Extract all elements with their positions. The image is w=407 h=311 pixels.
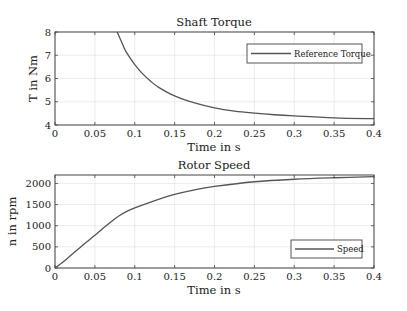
- y-axis-label: n in rpm: [5, 197, 19, 247]
- y-tick-label: 500: [32, 241, 51, 252]
- x-tick-label: 0.2: [207, 128, 223, 139]
- legend: Speed: [291, 240, 364, 258]
- x-axis-label: Time in s: [187, 283, 240, 297]
- y-axis-label: T in Nm: [26, 55, 40, 102]
- x-tick-label: 0.4: [366, 271, 382, 282]
- y-tick-label: 0: [45, 263, 51, 274]
- x-tick-label: 0.25: [243, 128, 265, 139]
- y-tick-label: 8: [45, 27, 51, 38]
- legend: Reference Torque: [247, 44, 371, 63]
- x-axis-label: Time in s: [187, 140, 240, 154]
- y-tick-label: 5: [45, 96, 51, 107]
- x-tick-label: 0.2: [207, 271, 223, 282]
- x-tick-label: 0.1: [127, 128, 143, 139]
- figure: Shaft Torque 00.050.10.150.20.250.30.350…: [0, 0, 407, 311]
- y-tick-label: 2000: [26, 178, 51, 189]
- y-tick-label: 6: [45, 73, 51, 84]
- x-tick-label: 0.15: [163, 128, 185, 139]
- legend-label-speed: Speed: [337, 244, 364, 254]
- x-tick-label: 0.4: [366, 128, 382, 139]
- x-tick-label: 0.25: [243, 271, 265, 282]
- x-tick-label: 0.35: [323, 271, 345, 282]
- y-tick-label: 1000: [26, 220, 51, 231]
- x-tick-label: 0.15: [163, 271, 185, 282]
- x-tick-label: 0.05: [84, 271, 106, 282]
- y-tick-label: 7: [45, 50, 51, 61]
- chart-title: Shaft Torque: [176, 15, 252, 29]
- x-tick-label: 0.1: [127, 271, 143, 282]
- x-tick-label: 0: [52, 271, 58, 282]
- y-tick-label: 1500: [26, 199, 51, 210]
- chart-title: Rotor Speed: [178, 158, 251, 172]
- shaft-torque-plot: Shaft Torque 00.050.10.150.20.250.30.350…: [26, 15, 382, 154]
- legend-label-reference-torque: Reference Torque: [294, 49, 371, 59]
- x-tick-label: 0.35: [323, 128, 345, 139]
- x-tick-label: 0.3: [286, 128, 302, 139]
- y-tick-label: 4: [45, 120, 51, 131]
- x-tick-label: 0.3: [286, 271, 302, 282]
- rotor-speed-plot: Rotor Speed 00.050.10.150.20.250.30.350.…: [5, 158, 382, 297]
- x-tick-label: 0.05: [84, 128, 106, 139]
- x-tick-label: 0: [52, 128, 58, 139]
